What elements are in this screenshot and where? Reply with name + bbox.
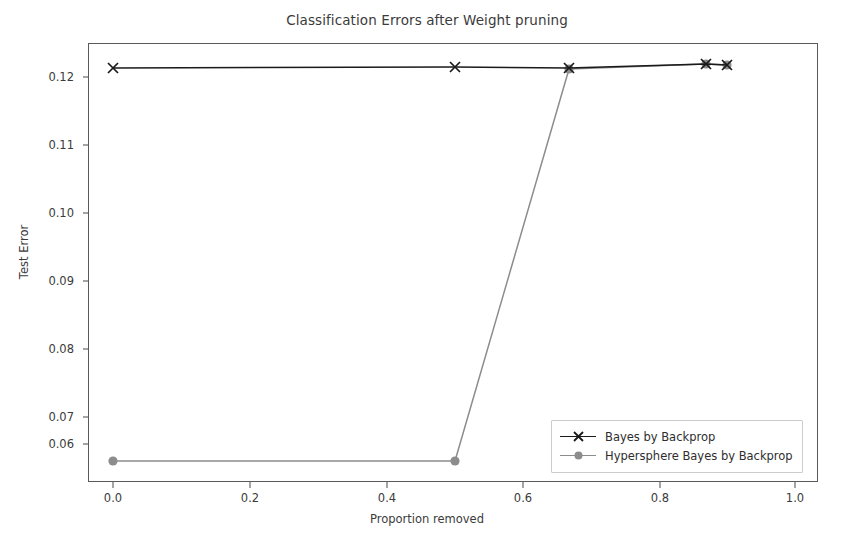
series-line-bayes-by-backprop	[108, 59, 732, 73]
legend-item-bayes-by-backprop: Bayes by Backprop	[560, 427, 794, 446]
y-axis-label: Test Error	[17, 202, 31, 302]
xtick-label: 0.4	[357, 491, 417, 505]
xtick-label: 0.8	[630, 491, 690, 505]
legend-label: Bayes by Backprop	[605, 430, 715, 444]
data-point	[108, 456, 117, 465]
y-axis-ticks	[83, 77, 88, 444]
data-point	[450, 456, 459, 465]
x-axis-ticks	[113, 482, 795, 488]
x-axis-label: Proportion removed	[0, 512, 854, 526]
legend-swatch-x-marker-icon	[560, 430, 596, 444]
legend: Bayes by Backprop Hypersphere Bayes by B…	[551, 420, 803, 473]
series-line-hypersphere-bayes-by-backprop	[108, 59, 731, 465]
xtick-label: 0.0	[83, 491, 143, 505]
figure-canvas: Classification Errors after Weight pruni…	[0, 0, 854, 547]
ytick-label: 0.11	[18, 138, 74, 152]
legend-label: Hypersphere Bayes by Backprop	[605, 449, 793, 463]
ytick-label: 0.07	[18, 410, 74, 424]
legend-item-hypersphere-bayes-by-backprop: Hypersphere Bayes by Backprop	[560, 446, 794, 465]
xtick-label: 0.6	[493, 491, 553, 505]
legend-swatch-circle-marker-icon	[560, 449, 596, 463]
ytick-label: 0.08	[18, 342, 74, 356]
xtick-label: 0.2	[220, 491, 280, 505]
xtick-label: 1.0	[765, 491, 825, 505]
ytick-label: 0.06	[18, 437, 74, 451]
ytick-label: 0.12	[18, 70, 74, 84]
